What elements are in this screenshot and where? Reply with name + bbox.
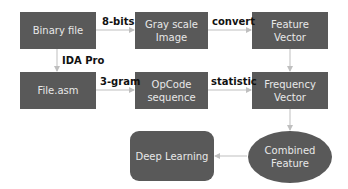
node-combined-feature-line1: Combined	[265, 145, 316, 156]
node-binary-file-label: Binary file	[33, 24, 84, 37]
node-frequency-vector: Frequency Vector	[252, 72, 328, 109]
node-combined-feature: Combined Feature	[248, 131, 332, 183]
edge-label-convert: convert	[212, 16, 255, 28]
node-gray-scale-image-line2: Image	[156, 32, 187, 43]
node-feature-vector-line2: Vector	[274, 32, 306, 43]
node-combined-feature-label: Combined Feature	[265, 144, 316, 170]
edge-label-8-bits: 8-bits	[102, 16, 134, 28]
node-binary-file: Binary file	[20, 12, 96, 49]
node-gray-scale-image-label: Gray scale Image	[145, 18, 198, 44]
edge-label-statistic: statistic	[211, 76, 257, 88]
node-opcode-sequence: OpCode sequence	[135, 72, 208, 109]
node-feature-vector-label: Feature Vector	[271, 18, 309, 44]
edge-label-ida-pro: IDA Pro	[62, 55, 104, 67]
node-feature-vector: Feature Vector	[252, 12, 328, 49]
node-deep-learning-label: Deep Learning	[136, 150, 209, 163]
node-feature-vector-line1: Feature	[271, 19, 309, 30]
node-file-asm-label: File.asm	[38, 84, 79, 97]
edge-label-3-gram: 3-gram	[100, 76, 140, 88]
node-frequency-vector-label: Frequency Vector	[264, 78, 316, 104]
node-frequency-vector-line2: Vector	[274, 92, 306, 103]
node-opcode-sequence-line2: sequence	[147, 92, 195, 103]
node-frequency-vector-line1: Frequency	[264, 79, 316, 90]
node-deep-learning: Deep Learning	[130, 131, 214, 181]
node-gray-scale-image-line1: Gray scale	[145, 19, 198, 30]
node-opcode-sequence-label: OpCode sequence	[147, 78, 195, 104]
node-opcode-sequence-line1: OpCode	[152, 79, 192, 90]
node-gray-scale-image: Gray scale Image	[135, 12, 208, 49]
node-file-asm: File.asm	[20, 72, 96, 109]
node-combined-feature-line2: Feature	[271, 158, 309, 169]
